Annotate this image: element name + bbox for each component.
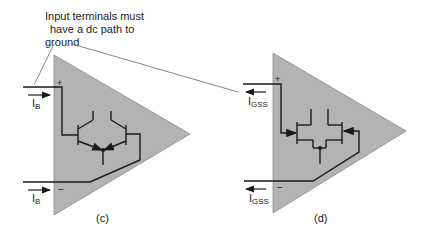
annotation-text: Input terminals must have a dc path to g… [45,10,144,48]
plus-sign-c: + [57,78,62,88]
figure-c: + − IB IB (c) [23,55,190,224]
label-ib-top-c: IB [32,97,40,111]
label-ib-bottom-c: IB [32,192,40,206]
figure-d: + − IGSS IGSS (d) [243,53,406,224]
minus-sign-d: − [277,182,283,193]
label-igss-bottom-d: IGSS [249,192,269,206]
annotation-line-3: ground [45,36,79,48]
tail-node-c [101,148,105,152]
plus-sign-d: + [275,74,280,84]
caption-c: (c) [96,212,109,224]
tail-node-d [318,146,322,150]
opamp-input-diagram: Input terminals must have a dc path to g… [0,0,428,239]
leader-line-c [34,44,54,85]
caption-d: (d) [314,212,327,224]
annotation-line-2: have a dc path to [50,23,134,35]
label-igss-top-d: IGSS [248,95,268,109]
annotation-line-1: Input terminals must [45,10,144,22]
minus-sign-c: − [58,184,64,195]
